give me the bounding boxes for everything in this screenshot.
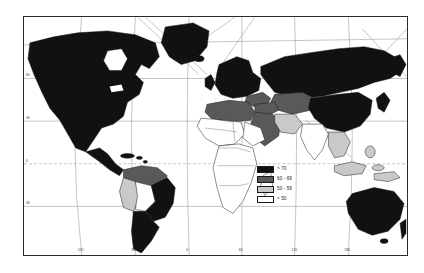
svg-text:180: 180 xyxy=(344,248,350,252)
legend-swatch-low xyxy=(257,186,274,194)
svg-text:120: 120 xyxy=(292,248,298,252)
svg-text:120: 120 xyxy=(78,248,84,252)
svg-text:30: 30 xyxy=(26,116,30,120)
legend-item: 50 - 59 xyxy=(257,185,309,194)
map-frame: 60 30 0 30 120 60 0 60 120 180 > 70 60 -… xyxy=(23,16,408,256)
legend-swatch-none xyxy=(257,196,274,204)
region-tasmania xyxy=(380,239,388,244)
legend-item: > 70 xyxy=(257,165,309,174)
legend-label-none: < 50 xyxy=(277,197,286,202)
svg-text:60: 60 xyxy=(239,248,243,252)
region-central-america xyxy=(86,148,124,176)
region-north-america xyxy=(28,31,159,152)
svg-text:0: 0 xyxy=(26,159,28,163)
region-caribbean xyxy=(120,153,147,163)
region-iceland xyxy=(194,56,204,62)
legend-swatch-mid xyxy=(257,176,274,184)
region-europe xyxy=(215,57,261,99)
legend-label-mid: 60 - 69 xyxy=(277,177,292,182)
svg-text:30: 30 xyxy=(26,201,30,205)
world-map-svg: 60 30 0 30 120 60 0 60 120 180 xyxy=(24,17,407,255)
region-india xyxy=(301,124,329,160)
region-north-africa xyxy=(205,100,255,122)
map-legend: > 70 60 - 69 50 - 59 < 50 xyxy=(257,165,309,204)
region-central-southern-africa xyxy=(213,144,257,213)
region-southeast-asia xyxy=(328,132,350,158)
legend-item: 60 - 69 xyxy=(257,175,309,184)
region-russia xyxy=(261,47,402,99)
region-australia xyxy=(346,188,404,236)
region-british-isles xyxy=(205,75,215,91)
svg-text:60: 60 xyxy=(131,248,135,252)
region-japan xyxy=(376,92,390,112)
region-new-zealand xyxy=(400,219,406,239)
region-new-guinea xyxy=(374,172,400,182)
region-west-africa xyxy=(197,118,245,146)
world-map-figure: 60 30 0 30 120 60 0 60 120 180 > 70 60 -… xyxy=(0,0,424,273)
legend-swatch-high xyxy=(257,166,274,174)
legend-item: < 50 xyxy=(257,195,309,204)
legend-label-low: 50 - 59 xyxy=(277,187,292,192)
legend-label-high: > 70 xyxy=(277,167,286,172)
svg-text:0: 0 xyxy=(186,248,188,252)
svg-text:60: 60 xyxy=(26,74,30,78)
